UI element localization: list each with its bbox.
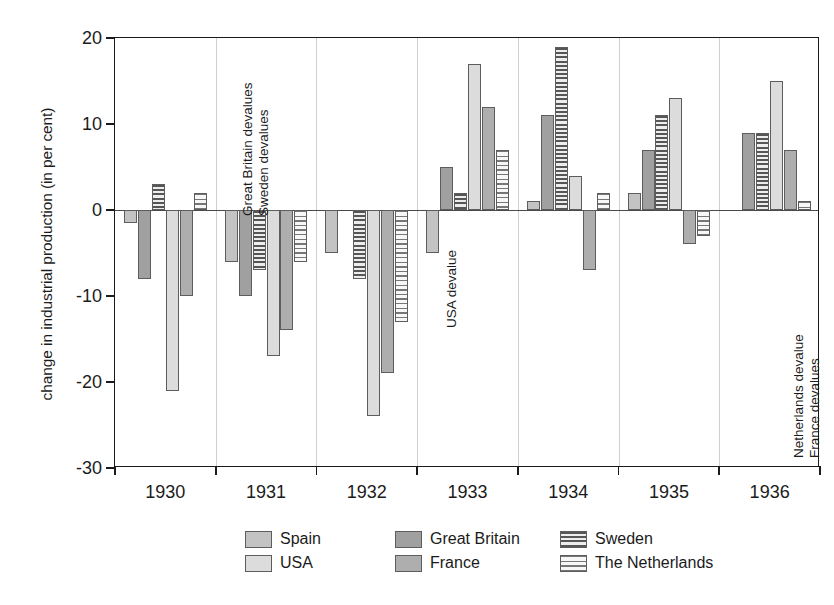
bar — [353, 210, 366, 279]
x-tick-label: 1932 — [347, 482, 387, 503]
y-tick-mark — [106, 37, 115, 39]
x-tick-label: 1935 — [649, 482, 689, 503]
bar — [569, 176, 582, 210]
bar — [166, 210, 179, 391]
gridline-vertical — [619, 38, 620, 466]
bar — [597, 193, 610, 210]
y-tick-mark — [106, 295, 115, 297]
gridline-vertical — [417, 38, 418, 466]
bar — [239, 210, 252, 296]
legend-swatch-icon — [395, 531, 422, 548]
chart-legend: SpainGreat BritainSwedenUSAFranceThe Net… — [245, 527, 750, 575]
chart-annotation: USA devalue — [444, 250, 459, 328]
chart-annotation: Great Britain devalues — [240, 82, 255, 216]
y-tick-mark — [106, 381, 115, 383]
legend-swatch-icon — [395, 555, 422, 572]
bar — [454, 193, 467, 210]
chart-annotation: France devalues — [807, 358, 822, 458]
chart-annotation: Sweden devalues — [256, 109, 271, 216]
x-tick-mark — [215, 466, 217, 475]
bar — [697, 210, 710, 236]
bar — [669, 98, 682, 210]
bar — [756, 133, 769, 210]
bar — [555, 47, 568, 210]
x-tick-mark — [316, 466, 318, 475]
bar — [798, 201, 811, 210]
legend-label: Sweden — [595, 530, 653, 548]
legend-label: The Netherlands — [595, 554, 713, 572]
bar — [496, 150, 509, 210]
bar — [642, 150, 655, 210]
bar — [152, 184, 165, 210]
bar — [655, 115, 668, 210]
y-tick-label: -10 — [76, 286, 102, 307]
y-tick-label: 0 — [92, 200, 102, 221]
zero-baseline — [115, 210, 818, 211]
bar — [253, 210, 266, 270]
bar — [225, 210, 238, 262]
legend-swatch-icon — [560, 555, 587, 572]
y-tick-label: 20 — [82, 28, 102, 49]
bar — [426, 210, 439, 253]
y-tick-label: -20 — [76, 372, 102, 393]
bar — [440, 167, 453, 210]
bar — [468, 64, 481, 210]
bar — [541, 115, 554, 210]
x-tick-mark — [114, 466, 116, 475]
bar — [367, 210, 380, 416]
bar — [180, 210, 193, 296]
x-tick-label: 1933 — [447, 482, 487, 503]
y-tick-label: -30 — [76, 458, 102, 479]
legend-swatch-icon — [560, 531, 587, 548]
bar — [395, 210, 408, 322]
legend-item-spain[interactable]: Spain — [245, 530, 395, 548]
x-tick-label: 1930 — [145, 482, 185, 503]
legend-label: France — [430, 554, 480, 572]
chart-annotation: Netherlands devalue — [791, 334, 806, 458]
legend-label: Great Britain — [430, 530, 520, 548]
gridline-vertical — [316, 38, 317, 466]
bar — [381, 210, 394, 373]
bar — [267, 210, 280, 356]
gridline-vertical — [518, 38, 519, 466]
gridline-vertical — [216, 38, 217, 466]
bar — [325, 210, 338, 253]
legend-item-gb[interactable]: Great Britain — [395, 530, 560, 548]
legend-label: Spain — [280, 530, 321, 548]
legend-item-netherlands[interactable]: The Netherlands — [560, 554, 750, 572]
legend-swatch-icon — [245, 531, 272, 548]
legend-item-sweden[interactable]: Sweden — [560, 530, 750, 548]
bar — [742, 133, 755, 210]
plot-area: Great Britain devaluesSweden devaluesUSA… — [114, 37, 819, 467]
y-tick-label: 10 — [82, 114, 102, 135]
bar — [628, 193, 641, 210]
legend-label: USA — [280, 554, 313, 572]
x-tick-label: 1931 — [246, 482, 286, 503]
bar — [784, 150, 797, 210]
legend-item-usa[interactable]: USA — [245, 554, 395, 572]
bar — [683, 210, 696, 244]
x-tick-label: 1934 — [548, 482, 588, 503]
bar — [482, 107, 495, 210]
bar — [770, 81, 783, 210]
bar — [124, 210, 137, 223]
bar — [194, 193, 207, 210]
bar — [138, 210, 151, 279]
y-tick-mark — [106, 209, 115, 211]
x-tick-label: 1936 — [750, 482, 790, 503]
x-tick-mark — [618, 466, 620, 475]
chart-figure: change in industrial production (in per … — [0, 0, 834, 605]
bar — [527, 201, 540, 210]
y-tick-mark — [106, 123, 115, 125]
bar — [294, 210, 307, 262]
bar — [280, 210, 293, 330]
x-tick-mark — [819, 466, 821, 475]
x-tick-mark — [416, 466, 418, 475]
y-axis-title: change in industrial production (in per … — [38, 44, 56, 464]
legend-item-france[interactable]: France — [395, 554, 560, 572]
x-tick-mark — [517, 466, 519, 475]
gridline-vertical — [719, 38, 720, 466]
legend-swatch-icon — [245, 555, 272, 572]
bar — [583, 210, 596, 270]
x-tick-mark — [718, 466, 720, 475]
